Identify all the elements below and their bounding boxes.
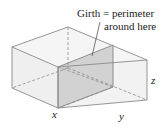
label-y: y (119, 111, 124, 122)
annotation-line-1: Girth = perimeter (77, 8, 154, 19)
label-z: z (151, 75, 155, 86)
label-x: x (52, 109, 57, 120)
annotation-line-2: around here (104, 21, 156, 32)
